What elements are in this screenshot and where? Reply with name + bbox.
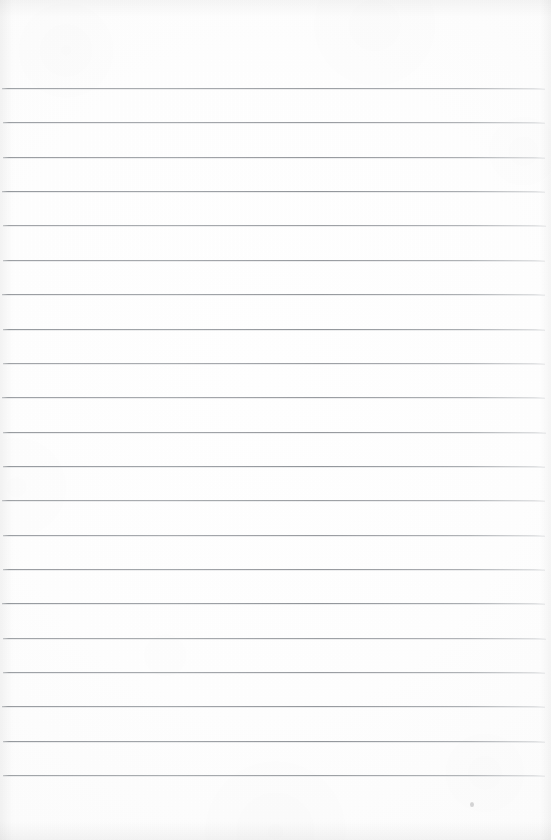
scanned-page xyxy=(0,0,551,840)
page-text-content xyxy=(0,0,551,840)
